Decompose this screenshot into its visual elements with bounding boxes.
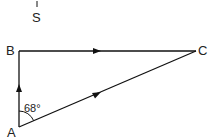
vector-triangle-diagram: S 68° B A C <box>0 0 208 140</box>
arrow-bc-icon <box>93 48 101 54</box>
point-a-label: A <box>7 125 16 140</box>
arrow-ac-icon <box>92 92 101 99</box>
arrow-ab-icon <box>16 84 22 92</box>
point-c-label: C <box>198 43 207 58</box>
vector-ac <box>19 51 196 127</box>
angle-label: 68° <box>24 102 41 114</box>
north-label: S <box>32 10 41 25</box>
point-b-label: B <box>6 43 15 58</box>
